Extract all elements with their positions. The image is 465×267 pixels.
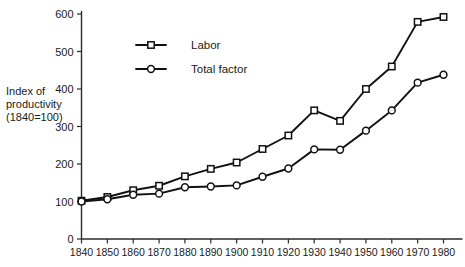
y-tick-label: 0 bbox=[67, 233, 73, 245]
data-point-total-factor bbox=[363, 127, 370, 134]
data-point-total-factor bbox=[233, 182, 240, 189]
legend-label-labor: Labor bbox=[191, 39, 221, 51]
x-tick-label: 1870 bbox=[147, 246, 171, 258]
productivity-line-chart: 0100200300400500600184018501860187018801… bbox=[0, 0, 465, 267]
x-tick-label: 1950 bbox=[354, 246, 378, 258]
data-point-total-factor bbox=[182, 184, 189, 191]
data-point-labor bbox=[182, 173, 188, 179]
x-tick-label: 1900 bbox=[225, 246, 249, 258]
y-axis-label-line: (1840=100) bbox=[6, 111, 63, 123]
chart-container: 0100200300400500600184018501860187018801… bbox=[0, 0, 465, 267]
y-tick-label: 600 bbox=[55, 8, 73, 20]
y-tick-label: 500 bbox=[55, 46, 73, 58]
data-point-total-factor bbox=[311, 146, 318, 153]
data-point-labor bbox=[259, 146, 265, 152]
data-point-labor bbox=[389, 63, 395, 69]
x-tick-label: 1860 bbox=[122, 246, 146, 258]
data-point-total-factor bbox=[337, 146, 344, 153]
data-point-total-factor bbox=[259, 173, 266, 180]
x-tick-label: 1940 bbox=[328, 246, 352, 258]
data-point-total-factor bbox=[78, 198, 85, 205]
data-point-labor bbox=[414, 19, 420, 25]
x-tick-label: 1910 bbox=[251, 246, 275, 258]
legend-label-total-factor: Total factor bbox=[191, 63, 247, 75]
data-point-total-factor bbox=[207, 183, 214, 190]
x-tick-label: 1880 bbox=[173, 246, 197, 258]
data-point-labor bbox=[285, 132, 291, 138]
x-tick-label: 1960 bbox=[380, 246, 404, 258]
y-axis-label-line: Index of bbox=[6, 85, 46, 97]
y-tick-label: 100 bbox=[55, 196, 73, 208]
data-point-labor bbox=[337, 118, 343, 124]
data-point-total-factor bbox=[285, 165, 292, 172]
x-tick-label: 1850 bbox=[96, 246, 120, 258]
y-tick-label: 400 bbox=[55, 83, 73, 95]
data-point-labor bbox=[208, 166, 214, 172]
data-point-total-factor bbox=[130, 191, 137, 198]
x-tick-label: 1890 bbox=[199, 246, 223, 258]
data-point-total-factor bbox=[414, 79, 421, 86]
data-point-labor bbox=[156, 183, 162, 189]
x-tick-label: 1930 bbox=[303, 246, 327, 258]
legend-marker-square bbox=[148, 42, 154, 48]
x-tick-label: 1840 bbox=[70, 246, 94, 258]
data-point-total-factor bbox=[156, 190, 163, 197]
data-point-labor bbox=[311, 107, 317, 113]
data-point-labor bbox=[363, 86, 369, 92]
data-point-labor bbox=[440, 14, 446, 20]
y-tick-label: 200 bbox=[55, 158, 73, 170]
data-point-total-factor bbox=[104, 196, 111, 203]
data-point-labor bbox=[233, 159, 239, 165]
x-tick-label: 1970 bbox=[406, 246, 430, 258]
x-tick-label: 1920 bbox=[277, 246, 301, 258]
x-tick-label: 1980 bbox=[432, 246, 456, 258]
data-point-total-factor bbox=[388, 107, 395, 114]
series-line-total-factor bbox=[82, 75, 444, 202]
y-axis-label-line: productivity bbox=[6, 98, 62, 110]
data-point-total-factor bbox=[440, 71, 447, 78]
legend-marker-circle bbox=[148, 66, 155, 73]
